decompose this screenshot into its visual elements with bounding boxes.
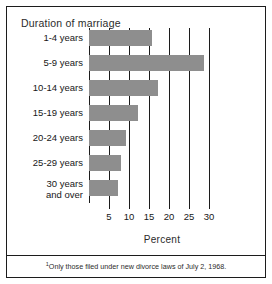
category-label-line: 20-24 years	[33, 132, 83, 143]
axis-tick	[189, 203, 190, 209]
axis-tick-label: 20	[164, 211, 175, 222]
axis-tick	[149, 203, 150, 209]
category-label-line: 15-19 years	[33, 107, 83, 118]
footnote-divider	[7, 255, 265, 256]
bars-area	[89, 28, 265, 203]
axis-tick	[129, 203, 130, 209]
axis-tick	[209, 203, 210, 209]
category-label: 25-29 years	[33, 157, 83, 168]
chart-figure: Duration of marriage 1-4 years 5-9 years…	[0, 0, 272, 284]
category-axis-labels: 1-4 years 5-9 years 10-14 years 15-19 ye…	[7, 28, 89, 203]
bar	[89, 105, 138, 121]
bar	[89, 30, 152, 46]
category-label-line: 5-9 years	[43, 57, 83, 68]
category-label: 20-24 years	[33, 132, 83, 143]
bar	[89, 180, 118, 196]
category-label: 10-14 years	[33, 82, 83, 93]
category-label-line: 1-4 years	[43, 32, 83, 43]
footnote-text: Only those filed under new divorce laws …	[49, 262, 226, 271]
axis-tick-label: 15	[144, 211, 155, 222]
bar	[89, 80, 158, 96]
value-axis: 5 10 15 20 25 30	[89, 203, 265, 229]
value-axis-title: Percent	[7, 234, 265, 245]
category-label: 1-4 years	[43, 32, 83, 43]
axis-tick-label: 5	[106, 211, 111, 222]
bar	[89, 55, 204, 71]
footnote: 1Only those filed under new divorce laws…	[7, 261, 265, 271]
gridline-30	[209, 28, 210, 203]
category-label: 5-9 years	[43, 57, 83, 68]
axis-tick-label: 10	[124, 211, 135, 222]
bar	[89, 130, 126, 146]
axis-tick-label: 25	[184, 211, 195, 222]
bar	[89, 155, 121, 171]
axis-tick	[109, 203, 110, 209]
category-label-line: 30 years	[46, 178, 83, 189]
category-label: 15-19 years	[33, 107, 83, 118]
category-label-line: 10-14 years	[33, 82, 83, 93]
category-label-line: and over	[46, 189, 83, 200]
plot-area: 1-4 years 5-9 years 10-14 years 15-19 ye…	[7, 28, 265, 203]
category-label-line: 25-29 years	[33, 157, 83, 168]
chart-frame: Duration of marriage 1-4 years 5-9 years…	[6, 6, 266, 278]
axis-tick	[169, 203, 170, 209]
axis-tick-label: 30	[204, 211, 215, 222]
category-label: 30 years and over	[46, 178, 83, 200]
